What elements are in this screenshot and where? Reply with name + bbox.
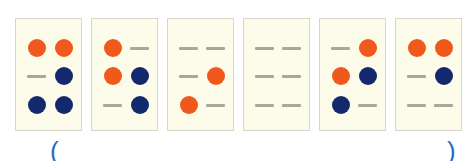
cell-r1-c2: [282, 38, 302, 58]
answer-blank[interactable]: [70, 138, 440, 160]
cell-r3-c1: [255, 95, 275, 115]
orange-dot-icon: [408, 39, 426, 57]
cell-r2-c2: [54, 66, 74, 86]
cell-r2-c1: [407, 66, 427, 86]
cell-r2-c2: [206, 66, 226, 86]
cell-r1-c1: [103, 38, 123, 58]
dash-icon: [255, 75, 274, 78]
cell-r3-c2: [130, 95, 150, 115]
dash-icon: [206, 104, 225, 107]
dash-icon: [407, 104, 426, 107]
dash-icon: [130, 47, 149, 50]
dash-icon: [407, 75, 426, 78]
cell-r1-c1: [179, 38, 199, 58]
card-1: [15, 18, 82, 131]
cell-r3-c2: [54, 95, 74, 115]
card-5: [319, 18, 386, 131]
orange-dot-icon: [435, 39, 453, 57]
card-4: [243, 18, 310, 131]
navy-dot-icon: [359, 67, 377, 85]
cell-r1-c1: [331, 38, 351, 58]
dash-icon: [255, 104, 274, 107]
cell-r2-c1: [179, 66, 199, 86]
cell-r1-c2: [54, 38, 74, 58]
dash-icon: [255, 47, 274, 50]
orange-dot-icon: [104, 67, 122, 85]
orange-dot-icon: [104, 39, 122, 57]
dash-icon: [282, 104, 301, 107]
orange-dot-icon: [359, 39, 377, 57]
dash-icon: [434, 104, 453, 107]
navy-dot-icon: [55, 96, 73, 114]
cell-r3-c2: [434, 95, 454, 115]
navy-dot-icon: [332, 96, 350, 114]
cell-r2-c1: [255, 66, 275, 86]
cell-r3-c2: [282, 95, 302, 115]
cell-r2-c1: [103, 66, 123, 86]
cell-r3-c2: [206, 95, 226, 115]
cell-r1-c2: [206, 38, 226, 58]
cell-r3-c1: [27, 95, 47, 115]
answer-close-paren: ): [447, 138, 456, 161]
cell-r1-c1: [255, 38, 275, 58]
card-6: [395, 18, 462, 131]
dash-icon: [282, 47, 301, 50]
dash-icon: [331, 47, 350, 50]
cell-r2-c2: [282, 66, 302, 86]
answer-open-paren: (: [50, 138, 59, 161]
orange-dot-icon: [55, 39, 73, 57]
cell-r1-c2: [130, 38, 150, 58]
cell-r2-c2: [434, 66, 454, 86]
cell-r3-c2: [358, 95, 378, 115]
navy-dot-icon: [28, 96, 46, 114]
cell-r2-c1: [27, 66, 47, 86]
navy-dot-icon: [435, 67, 453, 85]
cell-r3-c1: [407, 95, 427, 115]
navy-dot-icon: [131, 67, 149, 85]
dash-icon: [179, 75, 198, 78]
navy-dot-icon: [55, 67, 73, 85]
dash-icon: [282, 75, 301, 78]
dash-icon: [206, 47, 225, 50]
cell-r3-c1: [331, 95, 351, 115]
cell-r3-c1: [103, 95, 123, 115]
orange-dot-icon: [28, 39, 46, 57]
cell-r2-c2: [130, 66, 150, 86]
card-3: [167, 18, 234, 131]
cell-r2-c2: [358, 66, 378, 86]
navy-dot-icon: [131, 96, 149, 114]
orange-dot-icon: [332, 67, 350, 85]
cell-r1-c1: [407, 38, 427, 58]
cell-r1-c1: [27, 38, 47, 58]
orange-dot-icon: [180, 96, 198, 114]
orange-dot-icon: [207, 67, 225, 85]
dash-icon: [103, 104, 122, 107]
card-2: [91, 18, 158, 131]
dash-icon: [358, 104, 377, 107]
cell-r1-c2: [358, 38, 378, 58]
cell-r1-c2: [434, 38, 454, 58]
dash-icon: [27, 75, 46, 78]
cell-r2-c1: [331, 66, 351, 86]
dash-icon: [179, 47, 198, 50]
cell-r3-c1: [179, 95, 199, 115]
